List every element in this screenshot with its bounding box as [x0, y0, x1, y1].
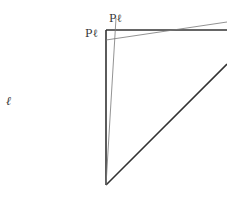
- thin-line-near-horizontal: [106, 22, 227, 40]
- label-top: Pℓ: [109, 12, 122, 25]
- thin-line-near-vertical: [106, 18, 116, 185]
- diagonal-edge: [106, 64, 227, 185]
- label-corner: Pℓ: [85, 27, 98, 40]
- label-left: ℓ: [6, 94, 11, 108]
- geometry-diagram: Pℓ Pℓ ℓ: [0, 0, 227, 201]
